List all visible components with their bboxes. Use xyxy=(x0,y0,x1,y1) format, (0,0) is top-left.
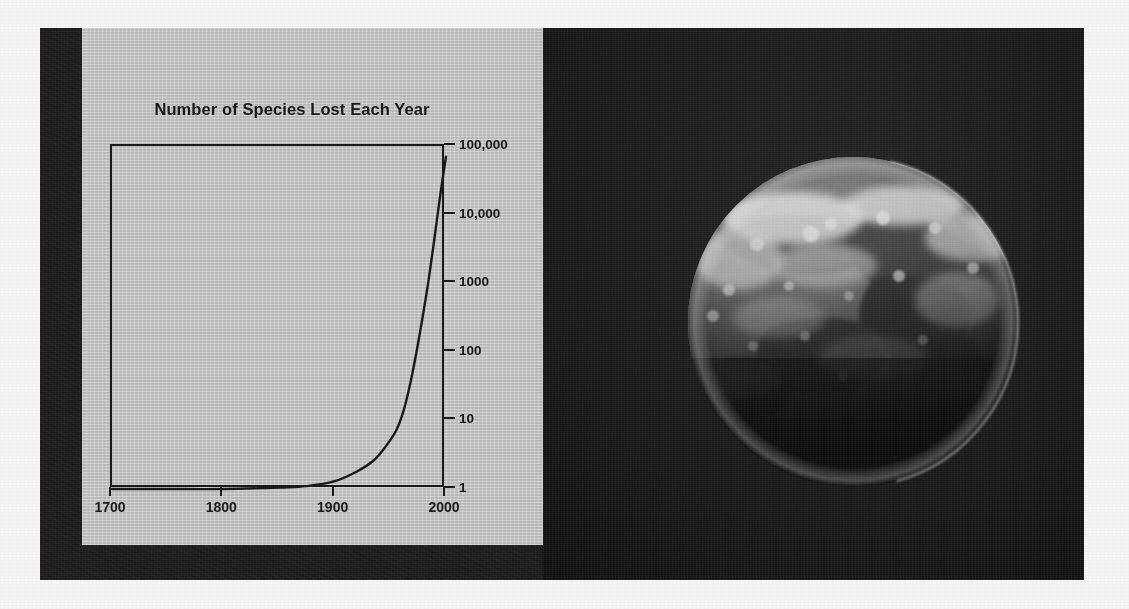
y-tick-label-100: 100 xyxy=(459,342,482,357)
x-tick-label-1900: 1900 xyxy=(317,499,348,515)
y-tick-label-1: 1 xyxy=(459,480,467,495)
x-tick-1900 xyxy=(332,487,334,496)
earth-globe-graphic xyxy=(543,28,1084,580)
y-tick-10000 xyxy=(444,212,455,214)
x-tick-label-2000: 2000 xyxy=(428,499,459,515)
species-loss-curve xyxy=(112,146,446,489)
chart-panel: Number of Species Lost Each Year 1101001… xyxy=(82,28,543,545)
y-tick-10 xyxy=(444,417,455,419)
y-tick-label-10: 10 xyxy=(459,411,474,426)
y-tick-100 xyxy=(444,349,455,351)
figure-page: Number of Species Lost Each Year 1101001… xyxy=(0,0,1129,609)
x-tick-label-1700: 1700 xyxy=(94,499,125,515)
y-tick-1 xyxy=(444,486,455,488)
x-tick-1700 xyxy=(109,487,111,496)
figure-plate: Number of Species Lost Each Year 1101001… xyxy=(40,28,1084,580)
y-tick-label-10000: 10,000 xyxy=(459,205,500,220)
y-tick-label-1000: 1000 xyxy=(459,274,489,289)
x-tick-label-1800: 1800 xyxy=(206,499,237,515)
chart-title: Number of Species Lost Each Year xyxy=(82,100,502,119)
y-tick-100000 xyxy=(444,143,455,145)
plot-frame xyxy=(110,144,444,487)
x-tick-1800 xyxy=(220,487,222,496)
earth-photograph xyxy=(543,28,1084,580)
y-tick-label-100000: 100,000 xyxy=(459,137,508,152)
y-tick-1000 xyxy=(444,280,455,282)
x-tick-2000 xyxy=(443,487,445,496)
